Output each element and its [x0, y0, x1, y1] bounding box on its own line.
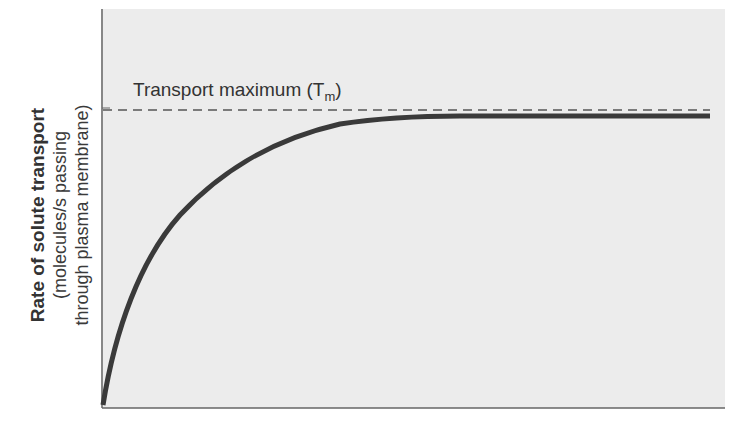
- y-axis-label: Rate of solute transport (molecules/s pa…: [0, 0, 120, 431]
- transport-maximum-label: Transport maximum (Tm): [133, 79, 342, 104]
- y-axis-label-main: Rate of solute transport: [27, 104, 49, 325]
- transport-maximum-subscript: m: [324, 89, 335, 104]
- transport-maximum-close: ): [335, 79, 341, 100]
- y-axis-label-sub-1: (molecules/s passing: [49, 104, 71, 325]
- y-axis-label-sub-2: through plasma membrane): [71, 104, 93, 325]
- plot-background: [101, 9, 725, 408]
- transport-maximum-text: Transport maximum (T: [133, 79, 324, 100]
